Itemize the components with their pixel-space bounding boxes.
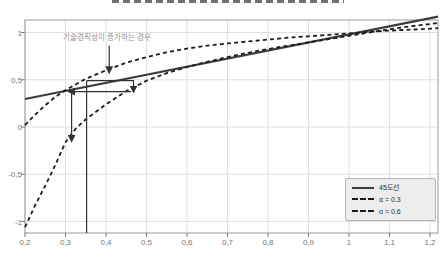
figure-canvas: 기술경직성이 증가하는 경우 45도선 α = 0.3 α = 0.6 0,20… xyxy=(0,0,445,257)
x-tick-label: 0,9 xyxy=(303,238,314,247)
x-tick-label: 1,2 xyxy=(424,238,435,247)
legend-label-alpha-03: α = 0.3 xyxy=(379,196,401,203)
x-tick-label: 0,2 xyxy=(19,238,30,247)
legend-item-alpha-03: α = 0.3 xyxy=(352,196,429,203)
legend-label-45-line: 45도선 xyxy=(379,184,399,191)
x-tick-label: 0,3 xyxy=(60,238,71,247)
legend-line-sample-solid xyxy=(352,187,374,189)
y-tick-label: 0 xyxy=(18,123,22,132)
legend-label-alpha-06: α = 0.6 xyxy=(379,208,401,215)
x-tick-label: 1,1 xyxy=(384,238,395,247)
annotation-label: 기술경직성이 증가하는 경우 xyxy=(63,31,151,42)
x-tick-label: 0,8 xyxy=(262,238,273,247)
x-tick-label: 1 xyxy=(347,238,351,247)
legend-item-45-line: 45도선 xyxy=(352,184,429,191)
x-tick-label: 0,4 xyxy=(100,238,111,247)
x-tick-label: 0,5 xyxy=(141,238,152,247)
x-tick-label: 0,6 xyxy=(181,238,192,247)
legend-line-sample-dashed-03 xyxy=(352,198,374,200)
y-tick-label: -1 xyxy=(15,217,22,226)
y-tick-label: -0,5 xyxy=(8,170,22,179)
legend: 45도선 α = 0.3 α = 0.6 xyxy=(345,178,436,221)
legend-item-alpha-06: α = 0.6 xyxy=(352,208,429,215)
y-tick-label: 0,5 xyxy=(11,75,22,84)
x-tick-label: 0,7 xyxy=(222,238,233,247)
legend-line-sample-dashed-06 xyxy=(352,210,374,212)
y-tick-label: 1 xyxy=(18,28,22,37)
